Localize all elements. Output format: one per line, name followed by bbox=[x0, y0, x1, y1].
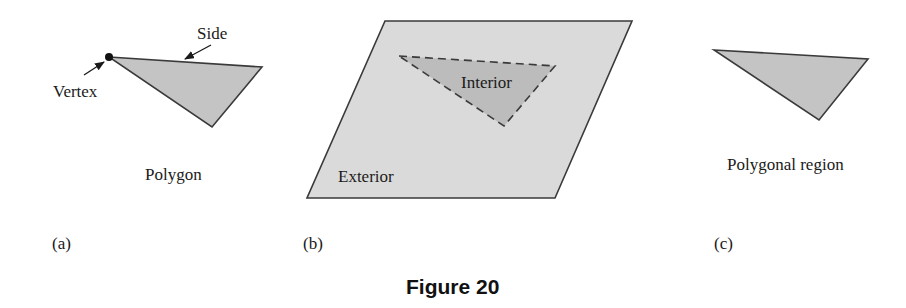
panel-a-tag: (a) bbox=[52, 234, 71, 253]
polygonal-region-caption: Polygonal region bbox=[727, 155, 844, 174]
exterior-label: Exterior bbox=[338, 167, 394, 186]
panel-a: Vertex Side Polygon (a) bbox=[52, 24, 262, 253]
vertex-dot-icon bbox=[105, 53, 113, 61]
panel-b-tag: (b) bbox=[303, 234, 323, 253]
polygon-caption: Polygon bbox=[145, 165, 202, 184]
vertex-label: Vertex bbox=[53, 82, 98, 101]
panel-b: Interior Exterior (b) bbox=[303, 21, 632, 253]
polygon-triangle bbox=[109, 57, 262, 127]
side-label: Side bbox=[197, 24, 227, 43]
interior-label: Interior bbox=[461, 73, 512, 92]
panel-c-tag: (c) bbox=[714, 234, 733, 253]
figure-caption: Figure 20 bbox=[406, 275, 499, 298]
side-arrow-icon bbox=[185, 45, 211, 59]
panel-c: Polygonal region (c) bbox=[714, 50, 868, 253]
polygonal-region-triangle bbox=[714, 50, 868, 120]
vertex-arrow-icon bbox=[84, 62, 104, 75]
figure-20: Vertex Side Polygon (a) Interior Exterio… bbox=[0, 0, 906, 308]
